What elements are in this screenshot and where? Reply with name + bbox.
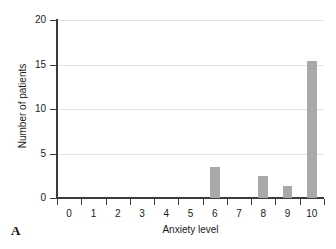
figure-panel: 05101520 012345678910 Anxiety level Numb… (0, 0, 336, 249)
x-axis-title: Anxiety level (57, 224, 324, 236)
x-axis-tick (106, 199, 107, 205)
panel-label: A (11, 224, 20, 238)
x-axis-tick (178, 199, 179, 205)
y-axis-tick-label: 0 (6, 193, 46, 203)
x-axis-tick (324, 199, 325, 205)
x-axis-tick (227, 199, 228, 205)
x-axis-tick (300, 199, 301, 205)
x-axis-tick (81, 199, 82, 205)
y-axis-tick-label: 20 (6, 15, 46, 25)
x-axis-tick-label: 7 (227, 208, 251, 219)
x-axis-tick-label: 4 (154, 208, 178, 219)
x-axis-tick-label: 5 (179, 208, 203, 219)
x-axis-tick (203, 199, 204, 205)
x-axis-tick-label: 0 (57, 208, 81, 219)
x-axis-tick-label: 8 (251, 208, 275, 219)
x-axis-tick (57, 199, 58, 205)
x-axis-tick-label: 6 (203, 208, 227, 219)
x-axis-tick-label: 1 (81, 208, 105, 219)
bar (283, 186, 293, 198)
y-axis-title: Number of patients (17, 36, 29, 176)
x-axis-tick-label: 10 (300, 208, 324, 219)
x-axis-tick-label: 2 (106, 208, 130, 219)
x-axis-tick (154, 199, 155, 205)
x-axis-tick (130, 199, 131, 205)
x-axis-tick-label: 3 (130, 208, 154, 219)
bar (307, 61, 317, 198)
bar-series (57, 20, 324, 198)
bar (210, 167, 220, 198)
x-axis-tick-label: 9 (276, 208, 300, 219)
bar (258, 176, 268, 198)
x-axis-tick (251, 199, 252, 205)
x-axis-tick (275, 199, 276, 205)
